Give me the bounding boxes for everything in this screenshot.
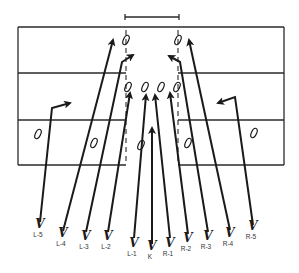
kickoff-coverage-diagram: VL-5VL-4VL-3VL-2VL-1VKVR-1VR-2VR-3VR-4VR… bbox=[0, 0, 299, 273]
player-marker-l-3: V bbox=[81, 229, 92, 243]
player-marker-r-2: V bbox=[183, 231, 194, 245]
player-label-l-2: L-2 bbox=[101, 243, 111, 250]
player-marker-r-3: V bbox=[203, 229, 214, 243]
player-marker-r-5: V bbox=[248, 219, 259, 233]
returner-front-3 bbox=[157, 81, 166, 92]
coverage-arrow-r-4 bbox=[189, 40, 230, 230]
player-label-r-5: R-5 bbox=[246, 233, 257, 240]
coverage-arrow-r-5 bbox=[218, 97, 253, 225]
player-marker-r-4: V bbox=[225, 226, 236, 240]
player-marker-r-1: V bbox=[165, 236, 176, 250]
player-label-k: K bbox=[148, 253, 153, 260]
player-marker-l-2: V bbox=[103, 229, 114, 243]
returner-front-2 bbox=[141, 81, 150, 92]
player-label-r-4: R-4 bbox=[223, 240, 234, 247]
goalpost-crossbar bbox=[125, 14, 179, 20]
player-marker-k: V bbox=[147, 239, 158, 253]
coverage-arrow-l-5 bbox=[40, 103, 70, 222]
coverage-paths bbox=[40, 40, 253, 244]
player-marker-l-1: V bbox=[129, 236, 140, 250]
coverage-arrow-r-2 bbox=[170, 93, 188, 234]
player-label-l-4: L-4 bbox=[56, 240, 66, 247]
returner-front-4 bbox=[173, 81, 182, 92]
player-label-l-3: L-3 bbox=[79, 243, 89, 250]
coverage-arrow-r-3 bbox=[169, 56, 208, 232]
return-team-players bbox=[34, 34, 259, 150]
returner-front-1 bbox=[124, 81, 133, 92]
coverage-arrow-l-1 bbox=[134, 95, 146, 238]
coverage-arrow-l-3 bbox=[86, 55, 133, 232]
player-label-r-1: R-1 bbox=[163, 250, 174, 257]
player-label-l-5: L-5 bbox=[33, 231, 43, 238]
coverage-arrow-r-1 bbox=[155, 95, 170, 238]
player-label-l-1: L-1 bbox=[127, 250, 137, 257]
player-marker-l-5: V bbox=[35, 217, 46, 231]
player-marker-l-4: V bbox=[58, 226, 69, 240]
kicking-team-players: VL-5VL-4VL-3VL-2VL-1VKVR-1VR-2VR-3VR-4VR… bbox=[33, 217, 259, 260]
player-label-r-2: R-2 bbox=[181, 245, 192, 252]
returner-wing-right bbox=[250, 127, 259, 138]
returner-mid-left bbox=[90, 137, 99, 148]
player-label-r-3: R-3 bbox=[201, 243, 212, 250]
returner-mid-right bbox=[184, 137, 193, 148]
returner-wing-left bbox=[34, 128, 43, 139]
